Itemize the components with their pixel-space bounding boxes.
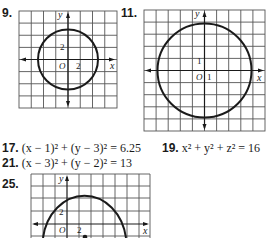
origin-label: O: [59, 225, 66, 235]
graph-25: y x O 2 2: [0, 0, 277, 238]
x-tick-label: 2: [77, 225, 82, 235]
y-axis-label: y: [58, 173, 64, 184]
x-axis-label: x: [142, 225, 148, 236]
y-tick-label: 2: [59, 207, 64, 217]
center-point: [83, 235, 88, 238]
